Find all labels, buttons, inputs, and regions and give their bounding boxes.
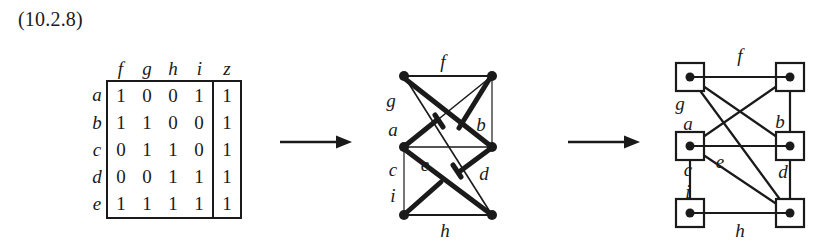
table-row: e 1 1 1 1 1 (88, 190, 241, 218)
edge-a (406, 120, 437, 145)
arrow-right-icon-1 (278, 130, 354, 154)
edge-label-b: b (775, 111, 785, 132)
matrix-cell-e-z: 1 (213, 190, 241, 218)
matrix-col-header-z: z (213, 58, 241, 81)
edge-label-b: b (476, 114, 486, 135)
edge-label-h: h (440, 220, 450, 241)
matrix-cell-b-g: 1 (134, 109, 160, 136)
matrix-cell-d-f: 0 (107, 163, 134, 190)
matrix-row-header-a: a (88, 81, 107, 109)
matrix-col-header-f: f (107, 58, 134, 81)
node-mid-left (686, 142, 695, 151)
node-bot-left (686, 209, 695, 218)
edge-label-e: e (421, 154, 429, 175)
arrow-right-icon-2 (566, 130, 642, 154)
matrix-cell-c-i: 0 (186, 136, 213, 163)
edge-label-f: f (440, 51, 448, 72)
node-mid-right (487, 142, 497, 152)
edge-label-d: d (778, 161, 788, 182)
matrix-row-header-e: e (88, 190, 107, 218)
node-bot-right (487, 210, 497, 220)
edge-label-a: a (683, 113, 693, 134)
edge-label-g: g (675, 93, 685, 114)
matrix-cell-a-i: 1 (186, 81, 213, 109)
matrix-cell-b-i: 0 (186, 109, 213, 136)
edge-label-e: e (716, 151, 724, 172)
matrix-row-header-c: c (88, 136, 107, 163)
edge-label-h: h (735, 220, 745, 241)
edge-i (406, 182, 441, 213)
matrix-header-row: f g h i z (88, 58, 241, 81)
graph-boxed-nodes: f g a b c e i d h (640, 0, 813, 247)
matrix-cell-c-h: 1 (160, 136, 186, 163)
node-top-right (487, 71, 497, 81)
matrix-col-header-i: i (186, 58, 213, 81)
matrix-cell-e-f: 1 (107, 190, 134, 218)
node-top-left (686, 73, 695, 82)
matrix-cell-a-h: 0 (160, 81, 186, 109)
matrix-cell-c-g: 1 (134, 136, 160, 163)
figure-container: (10.2.8) f g h i z a 1 0 0 1 (0, 0, 813, 247)
table-row: d 0 0 1 1 1 (88, 163, 241, 190)
matrix-cell-e-g: 1 (134, 190, 160, 218)
graph-thick-edges: f g a b c e i d h (355, 0, 545, 247)
node-top-left (399, 71, 409, 81)
edge-label-c: c (389, 159, 398, 180)
matrix-cell-d-h: 1 (160, 163, 186, 190)
incidence-matrix: f g h i z a 1 0 0 1 1 b 1 (88, 58, 242, 219)
matrix-col-header-g: g (134, 58, 160, 81)
node-mid-right (786, 142, 795, 151)
matrix-cell-e-i: 1 (186, 190, 213, 218)
matrix-cell-d-g: 0 (134, 163, 160, 190)
edge-label-f: f (737, 45, 745, 66)
matrix-cell-b-f: 1 (107, 109, 134, 136)
matrix-cell-d-i: 1 (186, 163, 213, 190)
edge-e-dash-2 (453, 165, 461, 177)
matrix-cell-b-h: 0 (160, 109, 186, 136)
node-mid-left (399, 142, 409, 152)
matrix-cell-c-z: 1 (213, 136, 241, 163)
edge-label-g: g (386, 90, 396, 111)
matrix-cell-a-z: 1 (213, 81, 241, 109)
node-bot-left (399, 210, 409, 220)
matrix-row-header-b: b (88, 109, 107, 136)
matrix-cell-b-z: 1 (213, 109, 241, 136)
matrix-cell-d-z: 1 (213, 163, 241, 190)
equation-tag: (10.2.8) (18, 8, 83, 31)
matrix-col-header-h: h (160, 58, 186, 81)
matrix-cell-a-g: 0 (134, 81, 160, 109)
edge-label-d: d (479, 163, 489, 184)
edge-label-c: c (684, 159, 693, 180)
edge-label-i: i (685, 181, 690, 202)
edge-label-a: a (388, 119, 398, 140)
matrix-cell-c-f: 0 (107, 136, 134, 163)
matrix-cell-e-h: 1 (160, 190, 186, 218)
matrix-row-header-d: d (88, 163, 107, 190)
table-row: b 1 1 0 0 1 (88, 109, 241, 136)
matrix-table: f g h i z a 1 0 0 1 1 b 1 (88, 58, 242, 219)
matrix-corner (88, 58, 107, 81)
table-row: a 1 0 0 1 1 (88, 81, 241, 109)
table-row: c 0 1 1 0 1 (88, 136, 241, 163)
node-bot-right (786, 209, 795, 218)
edge-label-i: i (390, 185, 395, 206)
node-top-right (786, 73, 795, 82)
matrix-cell-a-f: 1 (107, 81, 134, 109)
